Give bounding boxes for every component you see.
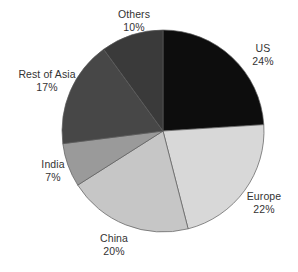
- pie-label-rest-of-asia-value: 17%: [2, 81, 92, 94]
- pie-label-china-name: China: [78, 232, 150, 245]
- pie-label-china-value: 20%: [78, 245, 150, 258]
- pie-label-others: Others 10%: [94, 8, 174, 34]
- pie-label-india: India 7%: [22, 158, 84, 184]
- pie-label-china: China 20%: [78, 232, 150, 258]
- pie-label-others-name: Others: [94, 8, 174, 21]
- pie-label-india-name: India: [22, 158, 84, 171]
- pie-label-europe: Europe 22%: [232, 190, 296, 216]
- pie-label-others-value: 10%: [94, 21, 174, 34]
- pie-label-europe-name: Europe: [232, 190, 296, 203]
- pie-label-europe-value: 22%: [232, 203, 296, 216]
- pie-label-rest-of-asia: Rest of Asia 17%: [2, 68, 92, 94]
- pie-label-rest-of-asia-name: Rest of Asia: [2, 68, 92, 81]
- pie-chart-figure: Others 10% US 24% Europe 22% China 20% I…: [0, 0, 298, 272]
- pie-label-india-value: 7%: [22, 171, 84, 184]
- pie-label-us-value: 24%: [234, 55, 292, 68]
- pie-label-us-name: US: [234, 42, 292, 55]
- pie-label-us: US 24%: [234, 42, 292, 68]
